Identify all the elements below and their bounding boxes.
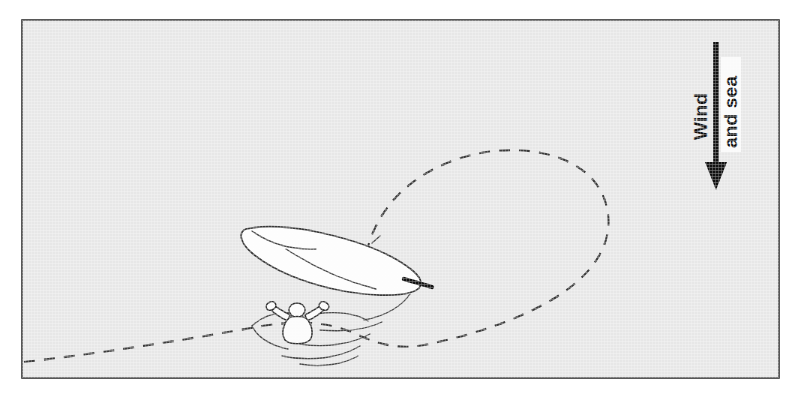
sea-label: and sea — [720, 76, 741, 148]
wind-label: Wind — [690, 93, 711, 140]
panel-background — [22, 20, 779, 378]
illustration-panel: Wind and sea — [0, 0, 801, 396]
illustration-canvas: Wind and sea — [0, 0, 801, 396]
